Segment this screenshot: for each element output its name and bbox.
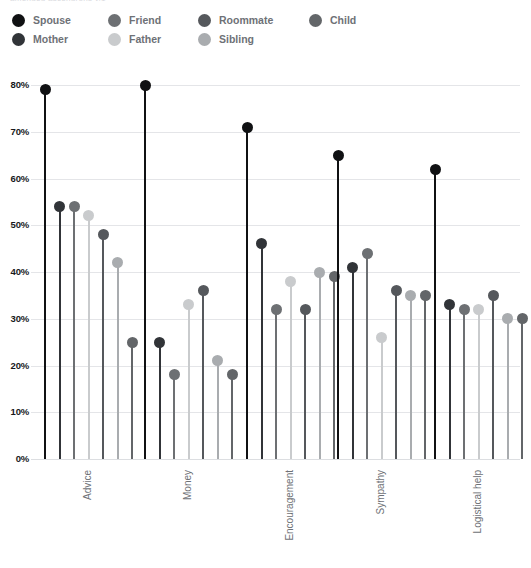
data-point-dot[interactable]	[183, 299, 194, 310]
data-point-dot[interactable]	[459, 304, 470, 315]
y-axis-tick-label: 10%	[3, 406, 29, 417]
stem-sibling-encouragement[interactable]	[319, 272, 321, 459]
stem-friend-advice[interactable]	[73, 207, 75, 459]
stem-child-advice[interactable]	[131, 342, 133, 459]
stem-mother-sympathy[interactable]	[352, 267, 354, 459]
stem-mother-advice[interactable]	[59, 207, 61, 459]
stem-roommate-encouragement[interactable]	[304, 309, 306, 459]
data-point-dot[interactable]	[54, 201, 65, 212]
data-point-dot[interactable]	[198, 285, 209, 296]
gridline	[31, 272, 520, 273]
stem-friend-encouragement[interactable]	[275, 309, 277, 459]
stem-spouse-advice[interactable]	[44, 90, 46, 459]
stem-spouse-money[interactable]	[144, 85, 146, 459]
data-point-dot[interactable]	[502, 313, 513, 324]
stem-mother-money[interactable]	[159, 342, 161, 459]
data-point-dot[interactable]	[256, 238, 267, 249]
stem-friend-logistical-help[interactable]	[463, 309, 465, 459]
x-axis-label-advice: Advice	[82, 470, 93, 500]
gridline	[31, 179, 520, 180]
data-point-dot[interactable]	[69, 201, 80, 212]
data-point-dot[interactable]	[391, 285, 402, 296]
gridline	[31, 132, 520, 133]
y-axis-ticks: 0%10%20%30%40%50%60%70%80%	[0, 85, 29, 459]
stem-child-money[interactable]	[231, 375, 233, 459]
gridline	[31, 85, 520, 86]
data-point-dot[interactable]	[473, 304, 484, 315]
stem-father-sympathy[interactable]	[381, 337, 383, 459]
plot-grid-area	[31, 85, 520, 459]
stem-sibling-sympathy[interactable]	[410, 295, 412, 459]
stem-child-logistical-help[interactable]	[521, 319, 523, 459]
y-axis-tick-label: 40%	[3, 266, 29, 277]
data-point-dot[interactable]	[154, 337, 165, 348]
stem-sibling-logistical-help[interactable]	[507, 319, 509, 459]
data-point-dot[interactable]	[127, 337, 138, 348]
y-axis-tick-label: 60%	[3, 173, 29, 184]
x-axis-label-money: Money	[182, 470, 193, 500]
data-point-dot[interactable]	[169, 369, 180, 380]
stem-father-logistical-help[interactable]	[478, 309, 480, 459]
stem-sibling-advice[interactable]	[117, 263, 119, 459]
stem-child-encouragement[interactable]	[333, 277, 335, 459]
data-point-dot[interactable]	[362, 248, 373, 259]
lollipop-chart: 0%10%20%30%40%50%60%70%80% AdviceMoneyEn…	[0, 0, 531, 568]
data-point-dot[interactable]	[405, 290, 416, 301]
stem-friend-money[interactable]	[173, 375, 175, 459]
data-point-dot[interactable]	[98, 229, 109, 240]
gridline	[31, 225, 520, 226]
gridline	[31, 459, 520, 460]
y-axis-tick-label: 80%	[3, 79, 29, 90]
y-axis-tick-label: 50%	[3, 219, 29, 230]
stem-father-advice[interactable]	[88, 216, 90, 459]
y-axis-tick-label: 20%	[3, 360, 29, 371]
stem-child-sympathy[interactable]	[424, 295, 426, 459]
stem-mother-encouragement[interactable]	[261, 244, 263, 459]
data-point-dot[interactable]	[333, 150, 344, 161]
stem-roommate-sympathy[interactable]	[395, 291, 397, 459]
y-axis-tick-label: 0%	[3, 453, 29, 464]
stem-spouse-encouragement[interactable]	[246, 127, 248, 459]
data-point-dot[interactable]	[140, 80, 151, 91]
stem-sibling-money[interactable]	[217, 361, 219, 459]
stem-spouse-logistical-help[interactable]	[434, 169, 436, 459]
data-point-dot[interactable]	[517, 313, 528, 324]
data-point-dot[interactable]	[300, 304, 311, 315]
data-point-dot[interactable]	[376, 332, 387, 343]
data-point-dot[interactable]	[242, 122, 253, 133]
stem-mother-logistical-help[interactable]	[449, 305, 451, 459]
data-point-dot[interactable]	[420, 290, 431, 301]
data-point-dot[interactable]	[285, 276, 296, 287]
data-point-dot[interactable]	[314, 267, 325, 278]
x-axis-label-sympathy: Sympathy	[375, 470, 386, 514]
y-axis-tick-label: 70%	[3, 126, 29, 137]
x-axis-label-encouragement: Encouragement	[284, 470, 295, 541]
stem-roommate-logistical-help[interactable]	[492, 295, 494, 459]
data-point-dot[interactable]	[112, 257, 123, 268]
data-point-dot[interactable]	[40, 84, 51, 95]
stem-father-encouragement[interactable]	[290, 281, 292, 459]
data-point-dot[interactable]	[488, 290, 499, 301]
data-point-dot[interactable]	[271, 304, 282, 315]
data-point-dot[interactable]	[347, 262, 358, 273]
stem-roommate-money[interactable]	[202, 291, 204, 459]
data-point-dot[interactable]	[430, 164, 441, 175]
stem-spouse-sympathy[interactable]	[337, 155, 339, 459]
stem-roommate-advice[interactable]	[102, 235, 104, 459]
stem-friend-sympathy[interactable]	[366, 253, 368, 459]
y-axis-tick-label: 30%	[3, 313, 29, 324]
x-axis-label-logistical-help: Logistical help	[472, 470, 483, 533]
data-point-dot[interactable]	[444, 299, 455, 310]
data-point-dot[interactable]	[227, 369, 238, 380]
stem-father-money[interactable]	[188, 305, 190, 459]
data-point-dot[interactable]	[83, 210, 94, 221]
